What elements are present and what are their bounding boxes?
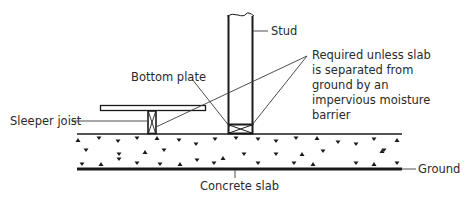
svg-text:ground by an: ground by an [312, 78, 388, 92]
framing-diagram: Stud Bottom plate Sleeper joist Concrete… [0, 0, 469, 204]
ground-label: Ground [418, 162, 460, 176]
note-leader-to-plate [252, 56, 307, 125]
concrete-slab-label: Concrete slab [200, 179, 279, 193]
concrete-slab [76, 134, 403, 169]
moisture-note: Required unless slab is separated from g… [312, 48, 431, 122]
sleeper-joist [148, 111, 156, 134]
bottom-plate-leader [192, 79, 230, 127]
svg-text:barrier: barrier [312, 108, 351, 122]
note-leader-to-sleeper [156, 56, 307, 127]
stud [227, 13, 254, 125]
floor-board [101, 106, 206, 111]
bottom-plate [229, 125, 253, 134]
aggregate-pattern [76, 136, 400, 166]
svg-text:impervious moisture: impervious moisture [312, 93, 430, 107]
stud-label: Stud [271, 24, 297, 38]
sleeper-joist-label: Sleeper joist [10, 114, 82, 128]
bottom-plate-label: Bottom plate [131, 70, 206, 84]
svg-text:is separated from: is separated from [312, 63, 413, 77]
svg-text:Required unless slab: Required unless slab [312, 48, 431, 62]
